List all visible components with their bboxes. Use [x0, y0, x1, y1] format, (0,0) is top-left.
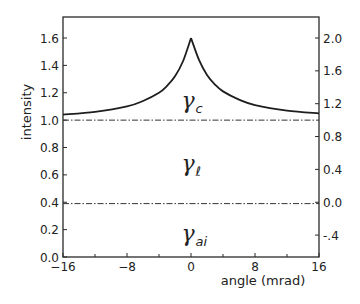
left-tick-label: 1.0 [40, 114, 59, 128]
left-tick-label: 1.6 [40, 32, 59, 46]
x-tick-label: 0 [187, 260, 195, 274]
right-tick-label: 1.2 [323, 97, 342, 111]
gamma-subscript: c [196, 101, 203, 116]
gamma-subscript: ai [196, 234, 208, 249]
left-tick-label: 0.8 [40, 141, 59, 155]
annotations: γcγℓγai [181, 88, 207, 249]
right-tick-label: 0.8 [323, 130, 342, 144]
x-tick-label: 8 [251, 260, 259, 274]
gamma-ai-label: γai [181, 221, 207, 249]
gamma-c-label: γc [181, 88, 202, 116]
right-tick-label: 2.0 [323, 32, 342, 46]
left-tick-label: 1.2 [40, 86, 59, 100]
gamma-subscript: ℓ [195, 164, 201, 179]
right-tick-label: 0.0 [323, 196, 342, 210]
data-series [63, 38, 319, 204]
y-axis-title: intensity [19, 84, 34, 141]
right-tick-label: 0.4 [323, 163, 342, 177]
intensity-angle-chart: 0.00.20.40.60.81.01.21.41.6 -.40.00.40.8… [0, 0, 360, 304]
x-tick-label: −16 [50, 260, 75, 274]
right-tick-label: -.4 [323, 229, 339, 243]
x-tick-label: −8 [118, 260, 136, 274]
gamma-l-label: γℓ [181, 151, 201, 179]
x-tick-label: 16 [311, 260, 326, 274]
right-tick-label: 1.6 [323, 64, 342, 78]
x-axis: −16−80816 [50, 253, 326, 274]
x-axis-title: angle (mrad) [221, 273, 306, 288]
left-tick-label: 0.4 [40, 196, 59, 210]
left-tick-label: 1.4 [40, 59, 59, 73]
left-tick-label: 0.6 [40, 168, 59, 182]
left-tick-label: 0.2 [40, 223, 59, 237]
